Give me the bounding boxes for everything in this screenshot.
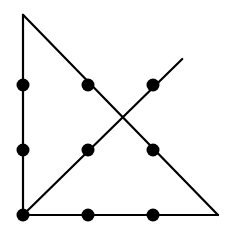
grid-dot bbox=[17, 79, 30, 92]
grid-dot bbox=[82, 144, 95, 157]
grid-dot bbox=[17, 209, 30, 222]
grid-dot bbox=[82, 79, 95, 92]
grid-dot bbox=[147, 144, 160, 157]
nine-dots-diagram bbox=[0, 0, 229, 234]
grid-dot bbox=[82, 209, 95, 222]
grid-dot bbox=[17, 144, 30, 157]
grid-dot bbox=[147, 79, 160, 92]
grid-dot bbox=[147, 209, 160, 222]
